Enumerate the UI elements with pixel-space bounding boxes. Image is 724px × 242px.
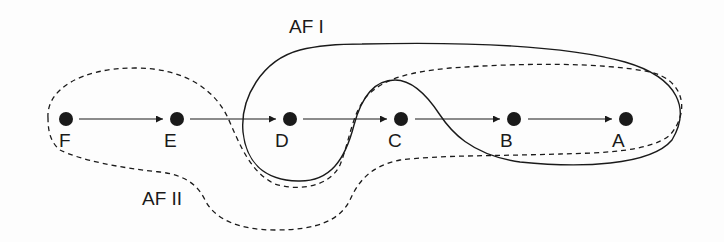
node-f	[59, 112, 73, 126]
node-label-f: F	[59, 130, 71, 151]
node-b	[507, 112, 521, 126]
node-label-b: B	[500, 130, 513, 151]
node-e	[170, 112, 184, 126]
diagram-svg: F E D C B A AF I AF II	[0, 0, 724, 242]
node-label-c: C	[388, 130, 402, 151]
node-a	[619, 112, 633, 126]
region-af1-boundary	[243, 43, 680, 181]
region-label-af1: AF I	[289, 16, 324, 37]
node-label-a: A	[612, 130, 625, 151]
node-label-d: D	[275, 130, 289, 151]
node-c	[394, 112, 408, 126]
node-d	[283, 112, 297, 126]
diagram-canvas: F E D C B A AF I AF II	[0, 0, 724, 242]
region-label-af2: AF II	[142, 188, 182, 209]
node-label-e: E	[164, 130, 177, 151]
